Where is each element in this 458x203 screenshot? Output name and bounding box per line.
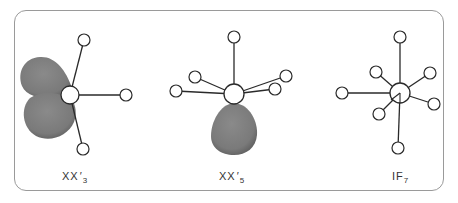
ligand-atom bbox=[336, 87, 348, 99]
ligand-atom bbox=[373, 108, 385, 120]
label-if7: IF7 bbox=[392, 170, 409, 185]
bonds bbox=[342, 37, 434, 148]
ligand-atom bbox=[428, 98, 440, 110]
label-main: IF bbox=[392, 170, 404, 182]
ligand-atom bbox=[269, 83, 281, 95]
ligand-atom bbox=[280, 70, 292, 82]
ligand-atom bbox=[392, 142, 404, 154]
ligand-atom bbox=[189, 71, 201, 83]
label-subscript: 7 bbox=[404, 176, 409, 185]
molecule-xx5 bbox=[170, 31, 292, 155]
central-atom bbox=[224, 84, 244, 104]
label-main: XX bbox=[219, 170, 236, 182]
label-main: XX bbox=[62, 170, 79, 182]
molecule-xx3 bbox=[20, 34, 132, 155]
ligand-atom bbox=[228, 31, 240, 43]
label-subscript: 3 bbox=[83, 176, 88, 185]
ligand-atom bbox=[120, 89, 132, 101]
lone-pair-lobe bbox=[211, 103, 257, 155]
ligand-atom bbox=[78, 34, 90, 46]
central-atom bbox=[61, 86, 79, 104]
label-xx3: XX′3 bbox=[62, 170, 88, 185]
label-subscript: 5 bbox=[240, 176, 245, 185]
ligand-atom bbox=[170, 85, 182, 97]
ligand-atom bbox=[370, 66, 382, 78]
ligand-atom bbox=[77, 143, 89, 155]
ligand-atom bbox=[424, 67, 436, 79]
molecule-if7 bbox=[336, 31, 440, 154]
ligand-atom bbox=[394, 31, 406, 43]
label-xx5: XX′5 bbox=[219, 170, 245, 185]
